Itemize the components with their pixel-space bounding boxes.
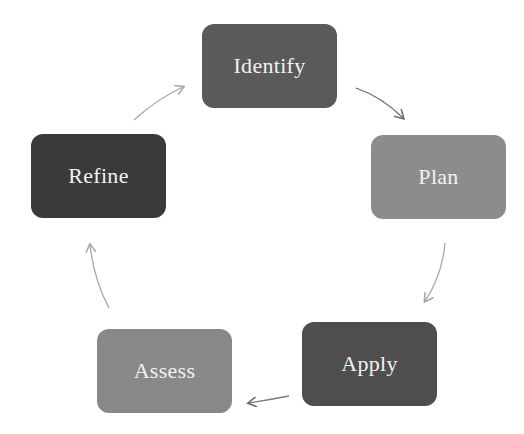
node-refine: Refine (31, 134, 166, 218)
node-label: Refine (68, 163, 128, 189)
node-plan: Plan (371, 135, 506, 219)
node-identify: Identify (202, 24, 337, 108)
node-assess: Assess (97, 329, 232, 413)
arrow-apply-to-assess (249, 396, 289, 403)
node-apply: Apply (302, 322, 437, 406)
arrow-assess-to-refine (90, 245, 109, 308)
arrow-plan-to-apply (425, 243, 445, 301)
node-label: Identify (233, 53, 305, 79)
arrow-refine-to-identify (134, 87, 183, 120)
node-label: Apply (341, 351, 398, 377)
arrow-identify-to-plan (356, 88, 403, 118)
node-label: Plan (418, 164, 458, 190)
node-label: Assess (134, 358, 196, 384)
